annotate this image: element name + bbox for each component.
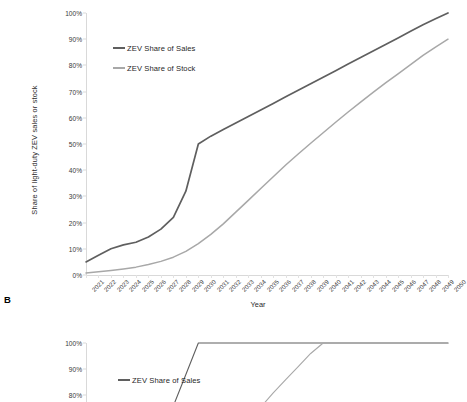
x-tick-mark: [123, 275, 124, 278]
y-tick-label: 100%: [65, 10, 86, 17]
panel-b-chart: 80%90%100% ZEV Share of Sales: [0, 330, 462, 402]
x-tick-mark: [323, 275, 324, 278]
y-tick-label: 60%: [69, 114, 86, 121]
x-tick-label: 2036: [277, 278, 292, 293]
x-tick-label: 2028: [178, 278, 193, 293]
x-tick-mark: [411, 275, 412, 278]
y-tick-label: 90%: [69, 366, 86, 373]
x-tick-label: 2047: [415, 278, 430, 293]
x-tick-mark: [373, 275, 374, 278]
panel-a-x-axis-title: Year: [251, 300, 266, 309]
x-tick-label: 2050: [452, 278, 467, 293]
x-tick-mark: [423, 275, 424, 278]
x-tick-label: 2048: [427, 278, 442, 293]
x-tick-mark: [211, 275, 212, 278]
x-tick-label: 2030: [202, 278, 217, 293]
x-tick-mark: [161, 275, 162, 278]
x-tick-label: 2035: [265, 278, 280, 293]
x-tick-label: 2046: [402, 278, 417, 293]
x-tick-mark: [386, 275, 387, 278]
y-tick-label: 50%: [69, 141, 86, 148]
x-tick-mark: [361, 275, 362, 278]
x-tick-mark: [336, 275, 337, 278]
panel-a-legend: ZEV Share of SalesZEV Share of Stock: [113, 38, 263, 78]
legend-line-icon: [118, 379, 130, 381]
x-tick-mark: [398, 275, 399, 278]
x-tick-label: 2039: [315, 278, 330, 293]
x-tick-mark: [198, 275, 199, 278]
y-tick-label: 0%: [72, 272, 86, 279]
x-tick-label: 2043: [365, 278, 380, 293]
y-tick-label: 40%: [69, 167, 86, 174]
y-tick-label: 20%: [69, 219, 86, 226]
x-tick-mark: [186, 275, 187, 278]
legend-item[interactable]: ZEV Share of Sales: [113, 38, 263, 58]
x-tick-label: 2024: [128, 278, 143, 293]
x-tick-mark: [448, 275, 449, 278]
y-tick-label: 80%: [69, 62, 86, 69]
x-tick-mark: [148, 275, 149, 278]
x-tick-mark: [261, 275, 262, 278]
legend-item-label: ZEV Share of Sales: [127, 44, 196, 53]
panel-b-legend: ZEV Share of Sales: [118, 370, 268, 390]
x-tick-label: 2049: [440, 278, 455, 293]
x-tick-label: 2045: [390, 278, 405, 293]
x-tick-mark: [311, 275, 312, 278]
x-tick-label: 2042: [352, 278, 367, 293]
legend-item[interactable]: ZEV Share of Sales: [118, 370, 268, 390]
x-tick-mark: [98, 275, 99, 278]
legend-item-label: ZEV Share of Sales: [132, 376, 201, 385]
x-tick-mark: [111, 275, 112, 278]
y-tick-label: 10%: [69, 245, 86, 252]
x-tick-label: 2041: [340, 278, 355, 293]
x-tick-mark: [348, 275, 349, 278]
x-tick-label: 2037: [290, 278, 305, 293]
y-tick-label: 80%: [69, 392, 86, 399]
x-tick-label: 2038: [302, 278, 317, 293]
x-tick-label: 2032: [227, 278, 242, 293]
x-tick-mark: [136, 275, 137, 278]
x-tick-label: 2040: [327, 278, 342, 293]
legend-item-label: ZEV Share of Stock: [127, 64, 196, 73]
x-tick-mark: [86, 275, 87, 278]
x-tick-label: 2044: [377, 278, 392, 293]
x-tick-mark: [286, 275, 287, 278]
x-tick-label: 2033: [240, 278, 255, 293]
legend-item[interactable]: ZEV Share of Stock: [113, 58, 263, 78]
panel-a-chart: Share of light-duty ZEV sales or stock 0…: [0, 0, 462, 320]
x-tick-mark: [173, 275, 174, 278]
x-tick-mark: [436, 275, 437, 278]
legend-line-icon: [113, 67, 125, 69]
x-tick-label: 2031: [215, 278, 230, 293]
panel-a-y-axis-title: Share of light-duty ZEV sales or stock: [30, 85, 39, 214]
y-tick-label: 90%: [69, 36, 86, 43]
x-tick-mark: [223, 275, 224, 278]
x-tick-mark: [236, 275, 237, 278]
x-tick-label: 2022: [103, 278, 118, 293]
y-tick-label: 100%: [65, 340, 86, 347]
x-tick-mark: [248, 275, 249, 278]
y-tick-label: 70%: [69, 88, 86, 95]
x-tick-label: 2026: [153, 278, 168, 293]
x-tick-label: 2034: [252, 278, 267, 293]
panel-b-label: B: [4, 294, 11, 305]
legend-line-icon: [113, 47, 125, 49]
x-tick-mark: [273, 275, 274, 278]
panel-a-x-axis-line: [86, 275, 448, 276]
y-tick-label: 30%: [69, 193, 86, 200]
x-tick-mark: [298, 275, 299, 278]
